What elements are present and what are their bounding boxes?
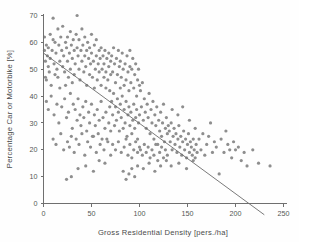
scatter-point [115,119,118,122]
scatter-point [128,143,131,146]
scatter-point [126,154,129,157]
scatter-point [191,154,194,157]
scatter-point [123,84,126,87]
scatter-point [157,119,160,122]
scatter-point [136,164,139,167]
scatter-point [47,46,50,49]
scatter-point [57,43,60,46]
scatter-point [75,137,78,140]
scatter-point [107,65,110,68]
scatter-point [170,164,173,167]
scatter-point [94,68,97,71]
scatter-point [182,129,185,132]
scatter-point [122,170,125,173]
trend-line-path [44,53,265,215]
scatter-point [76,119,79,122]
scatter-point [154,124,157,127]
scatter-point [121,94,124,97]
scatter-point [76,46,79,49]
scatter-point [97,62,100,65]
scatter-point [87,57,90,60]
scatter-point [159,164,162,167]
scatter-point [127,89,130,92]
scatter-point [177,124,180,127]
scatter-point [73,151,76,154]
scatter-point [84,164,87,167]
regression-line [44,53,265,215]
scatter-point [72,38,75,41]
scatter-point [141,81,144,84]
scatter-point [104,86,107,89]
scatter-point [109,60,112,63]
scatter-point [158,151,161,154]
scatter-point [150,148,153,151]
scatter-point [140,105,143,108]
scatter-point [79,124,82,127]
scatter-point [190,146,193,149]
scatter-point [102,76,105,79]
scatter-point [85,49,88,52]
scatter-point [64,84,67,87]
scatter-point [92,60,95,63]
scatter-point [79,49,82,52]
scatter-point [55,103,58,106]
scatter-point [160,135,163,138]
scatter-point [148,162,151,165]
scatter-point [55,68,58,71]
scatter-point [126,70,129,73]
scatter-point [127,172,130,175]
scatter-point [44,60,47,63]
scatter-point [152,154,155,157]
scatter-point [104,111,107,114]
scatter-point [88,121,91,124]
scatter-point [106,78,109,81]
scatter-point [124,121,127,124]
scatter-point [53,73,56,76]
scatter-point [153,113,156,116]
scatter-point [124,137,127,140]
scatter-point [184,137,187,140]
y-tick-label: 50 [30,65,38,74]
scatter-point [188,151,191,154]
scatter-point [45,43,48,46]
x-tick-label: 200 [230,209,242,218]
scatter-point [65,116,68,119]
y-tick-label: 0 [34,199,38,208]
scatter-point [100,84,103,87]
scatter-point [131,57,134,60]
scatter-point [148,156,151,159]
axes-layer [41,14,287,207]
scatter-point [78,113,81,116]
scatter-point [51,49,54,52]
scatter-point [186,143,189,146]
scatter-point [82,70,85,73]
scatter-point [222,151,225,154]
scatter-point [96,78,99,81]
scatter-point [148,132,151,135]
scatter-point [165,159,168,162]
scatter-point [132,148,135,151]
scatter-point [49,33,52,36]
scatter-point [111,70,114,73]
scatter-point [128,65,131,68]
scatter-point [166,154,169,157]
scatter-point [136,151,139,154]
scatter-point [109,154,112,157]
scatter-point [88,73,91,76]
scatter-point [187,132,190,135]
scatter-point [205,143,208,146]
scatter-point [83,154,86,157]
scatter-point [77,68,80,71]
y-tick-label: 30 [30,119,38,128]
scatter-point [50,94,53,97]
scatter-point [76,14,79,17]
scatter-point [141,154,144,157]
scatter-point [120,76,123,79]
scatter-point [86,41,89,44]
scatter-point [164,148,167,151]
scatter-point [58,60,61,63]
scatter-point [162,156,165,159]
scatter-point [54,52,57,55]
scatter-point [178,146,181,149]
scatter-point [100,137,103,140]
